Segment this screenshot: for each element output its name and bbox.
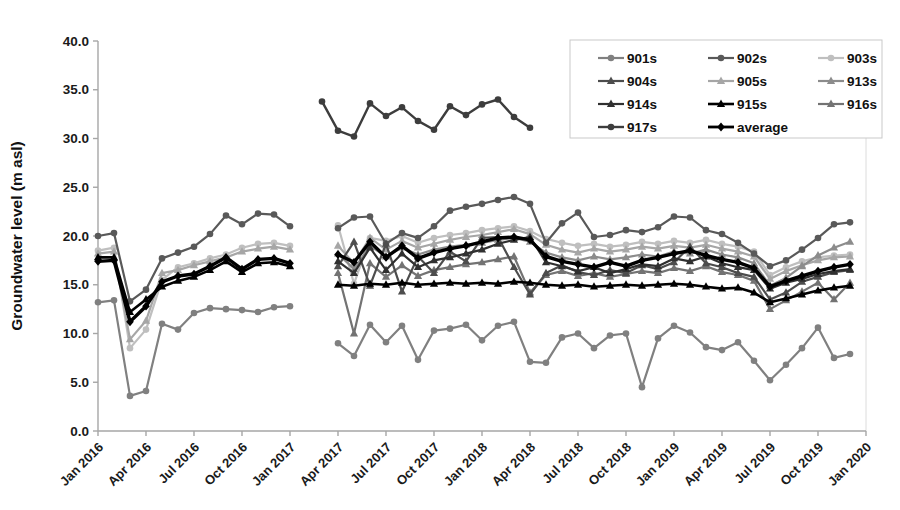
series-901s-marker [399,322,406,329]
series-902s-marker [799,246,806,253]
legend-903s-marker [828,55,835,62]
y-axis-title: Groundwater level (m asl) [8,141,25,331]
series-901s-marker [735,339,742,346]
series-902s-marker [95,233,102,240]
series-901s-marker [703,344,710,351]
x-tick-label: Jan 2017 [249,440,298,489]
series-902s-marker [847,219,854,226]
series-901s-marker [223,306,230,313]
series-902s-marker [543,240,550,247]
series-901s-marker [239,307,246,314]
series-902s-marker [607,232,614,239]
series-917s-marker [335,127,342,134]
series-901s-marker [655,335,662,342]
series-901s-marker [623,330,630,337]
legend-box [570,40,882,138]
series-916s-marker [398,261,406,268]
series-902s-marker [559,220,566,227]
y-tick-label: 0.0 [70,424,89,439]
series-917s-marker [511,114,518,121]
series-902s-marker [367,213,374,220]
series-901s-marker [95,299,102,306]
series-901s-marker [447,325,454,332]
series-902s-marker [271,211,278,218]
series-902s-marker [527,201,534,208]
series-901s-marker [159,320,166,327]
series-917s-marker [463,112,470,119]
series-901s-marker [687,329,694,336]
series-902s-marker [783,257,790,264]
series-901s-marker [431,327,438,334]
series-901s-marker [463,321,470,328]
series-916s-marker [334,269,342,276]
series-917s-marker [431,126,438,133]
series-917s-marker [399,104,406,111]
series-901s-marker [495,322,502,329]
series-902s-marker [511,194,518,201]
series-902s-marker [495,197,502,204]
series-917s-marker [383,113,390,120]
series-903s-marker [143,326,150,333]
series-902s-marker [255,210,262,217]
series-917s-marker [351,133,358,140]
series-901s-marker [351,353,358,360]
series-902s-marker [335,225,342,232]
series-917s-marker [415,118,422,125]
series-901s-marker [255,309,262,316]
series-901s-marker [543,359,550,366]
series-904s-marker [398,287,406,294]
y-tick-label: 5.0 [70,375,89,390]
x-tick-label: Apr 2017 [297,440,346,489]
series-902s-marker [815,235,822,242]
legend-label-901s: 901s [627,51,657,66]
series-average-marker [590,263,598,272]
series-913s-marker [846,237,854,244]
series-901s-marker [511,319,518,326]
series-902s-marker [687,214,694,221]
x-tick-label: Jul 2018 [539,440,586,487]
series-average-marker [654,253,662,262]
series-902s-marker [831,221,838,228]
series-901s-marker [767,377,774,384]
series-901s-marker [607,332,614,339]
series-901s-marker [335,340,342,347]
series-916s-marker [350,329,358,336]
series-901s-marker [479,337,486,344]
chart-figure: 0.05.010.015.020.025.030.035.040.0Jan 20… [0,0,900,510]
series-902s-marker [143,286,150,293]
series-902s-marker [447,207,454,214]
series-902s-marker [175,249,182,256]
series-902s-marker [431,223,438,230]
series-901s-marker [783,361,790,368]
legend-label-914s: 914s [627,97,657,112]
x-tick-label: Jan 2018 [441,440,490,489]
series-902s-marker [735,240,742,247]
series-902s-line [98,214,290,302]
series-917s-marker [319,98,326,105]
series-901s-line [338,322,850,387]
series-902s-marker [223,212,230,219]
y-tick-label: 40.0 [63,34,89,49]
series-901s-marker [591,345,598,352]
y-tick-label: 20.0 [63,229,89,244]
series-917s-marker [367,100,374,107]
series-901s-marker [831,355,838,362]
x-tick-label: Apr 2016 [105,440,154,489]
series-901s-marker [143,388,150,395]
series-901s-marker [271,304,278,311]
x-tick-label: Jan 2016 [57,440,106,489]
x-tick-label: Apr 2018 [489,440,538,489]
series-917s-marker [527,124,534,131]
x-tick-label: Jan 2020 [825,440,874,489]
legend: 901s902s903s904s905s913s914s915s916s917s… [570,40,882,138]
y-tick-label: 15.0 [63,277,89,292]
legend-label-905s: 905s [737,74,767,89]
series-903s-marker [575,242,582,249]
series-901s-marker [111,297,118,304]
series-902s-marker [623,227,630,234]
legend-label-903s: 903s [847,51,877,66]
series-902s-marker [159,255,166,262]
series-average-marker [670,249,678,258]
series-902s-marker [719,231,726,238]
series-902s-marker [111,230,118,237]
